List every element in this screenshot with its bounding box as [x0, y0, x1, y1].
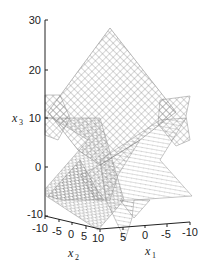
x1-tick-neg10: -10	[182, 226, 198, 238]
x3-tick-0: 0	[35, 161, 41, 173]
x2-axis-title: x	[67, 246, 74, 260]
x3-tick-10: 10	[29, 112, 41, 124]
x1-axis-title: x	[144, 244, 151, 258]
3d-surface-plot: 30 20 10 0 -10 x 3 -10 -5 0 5 10 x 2 10 …	[0, 0, 204, 268]
x3-tick-neg10: -10	[27, 208, 43, 220]
x2-tick-neg10: -10	[32, 222, 48, 234]
x1-tick-neg5: -5	[161, 228, 171, 240]
x1-axis-subscript: 1	[152, 251, 156, 260]
x3-axis-subscript: 3	[19, 118, 23, 127]
x1-tick-0: 0	[142, 229, 148, 241]
x3-tick-30: 30	[29, 14, 41, 26]
x2-tick-0: 0	[68, 228, 74, 240]
x3-tick-20: 20	[29, 64, 41, 76]
x2-tick-5: 5	[81, 230, 87, 242]
x3-axis-title: x	[11, 111, 18, 125]
x2-axis-subscript: 2	[75, 253, 79, 262]
x2-tick-neg5: -5	[52, 225, 62, 237]
x2-tick-10: 10	[92, 232, 104, 244]
x1-tick-5: 5	[120, 231, 126, 243]
